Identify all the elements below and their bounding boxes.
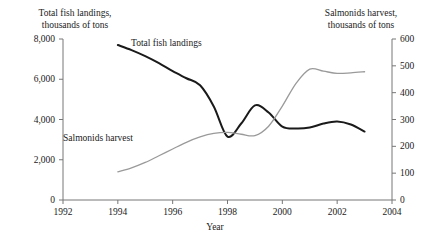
axis-lines	[59, 39, 396, 204]
x-axis-title: Year	[155, 222, 275, 234]
series-label-salmonids-harvest: Salmonids harvest	[63, 133, 133, 143]
chart-container: Total fish landings, thousands of tons S…	[0, 0, 433, 246]
plot-area	[0, 0, 433, 246]
series-label-total-fish-landings: Total fish landings	[131, 38, 202, 48]
series-line-salmonids-harvest	[118, 68, 365, 171]
series-line-total-fish-landings	[118, 45, 365, 137]
series-layer	[118, 45, 365, 172]
